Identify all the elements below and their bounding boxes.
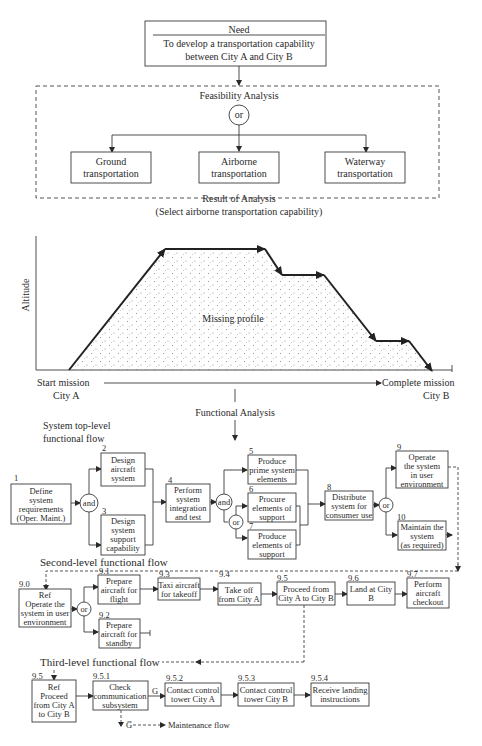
diagram-text: 9.5 [32,671,43,681]
need-title: Need [228,24,249,35]
diagram-text: 9.5.4 [311,673,329,683]
need-box: Need To develop a transportation capabil… [145,21,326,66]
top-level-title-1: System top-level [43,420,111,431]
diagram-text: flight [110,594,129,604]
block-9-1-prepare-flight: 9.1 Prepare aircraft for flight [98,566,140,604]
diagram-text: 3 [102,506,106,516]
diagram-text: and test [175,512,202,522]
option-ground: Ground transportation [71,152,151,183]
diagram-text: checkout [413,597,444,607]
option-waterway: Waterway transportation [325,152,405,183]
diagram-text: (as required) [400,540,443,550]
diagram-text: transportation [337,168,393,179]
diagram-text: 4 [168,475,173,485]
diagram-text: for takeoff [161,589,197,599]
diagram-text: 8 [327,482,331,492]
block-9-2-prepare-standby: 9.2 Prepare aircraft for standby [99,610,140,648]
diagram-text: Airborne [221,156,258,167]
diagram-text: (Oper. Maint.) [17,513,66,523]
block-3-design-support: 3 Design system support capability [101,506,145,555]
or-gate-label: or [235,109,244,120]
diagram-text: 9 [397,442,401,452]
go-label: G [152,686,158,696]
diagram-text: environment [401,479,445,489]
diagram-text: 9.1 [99,566,110,576]
diagram-text: support [259,512,285,522]
diagram-text: tower City B [244,694,288,704]
altitude-axis-label: Altitude [20,278,31,311]
diagram-text: 1 [14,473,18,483]
block-5-produce-prime: 5 Produce prime system elements [248,446,296,484]
second-level-flow: Second-level functional flow 9.0 Ref Ope… [19,556,458,662]
block-9-5-3-contact-tower-b: 9.5.3 Contact control tower City B [238,673,294,706]
diagram-text: 9.6 [348,573,359,583]
diagram-text: from City A [218,594,260,604]
block-1-define-requirements: 1 Define system requirements (Oper. Main… [11,473,71,524]
diagram-text: elements [257,474,287,484]
result-title: Result of Analysis [202,193,275,204]
diagram-text: instructions [320,694,360,704]
complete-mission-label: Complete mission [382,377,455,388]
block-2-design-aircraft: 2 Design aircraft system [101,443,145,486]
diagram-text: B [368,593,374,603]
diagram-text: Waterway [345,156,385,167]
diagram-text: or [232,517,239,527]
diagram-text: 9.5.3 [238,673,255,683]
diagram-text: 9.2 [99,610,110,620]
need-line2: between City A and City B [185,51,293,62]
block-9-7-checkout: 9.7 Perform aircraft checkout [407,569,449,608]
diagram-text: or [382,500,389,510]
diagram-text: 9.4 [219,569,230,579]
block-9-operate: 9 Operate the system in user environment [396,442,448,489]
missing-profile-label: Missing profile [202,313,264,324]
diagram-text: consumer use [326,510,373,520]
block-8-distribute: 8 Distribute system for consumer use [325,482,373,520]
block-9-5-4-receive-instructions: 9.5.4 Receive landing instructions [311,673,369,706]
diagram-text: Ground [96,156,127,167]
nogo-arrow-icon [118,722,124,727]
top-level-flow: System top-level functional flow 1 Defin… [11,420,458,571]
option-airborne: Airborne transportation [199,152,279,183]
block-7-produce-support: 7 Produce elements of support [248,521,296,559]
block-9-5-2-contact-tower-a: 9.5.2 Contact control tower City A [165,673,221,706]
diagram-text: City A to City B [278,593,334,603]
maintenance-flow-label: Maintenance flow [168,720,230,730]
diagram-text: subsystem [102,700,138,710]
diagram-text: 5 [249,446,253,456]
diagram-text: and [218,497,231,507]
block-9-5-1-check-comm: 9.5.1 Check communication subsystem [93,671,148,710]
diagram-text: 10 [397,512,406,522]
diagram-text: 7 [249,521,253,531]
diagram-text: tower City A [171,694,216,704]
diagram-text: 2 [102,443,106,453]
end-city-label: City B [423,390,450,401]
need-line1: To develop a transportation capability [163,38,314,49]
diagram-text: transportation [211,168,267,179]
diagram-text: 6 [249,484,253,494]
result-detail: (Select airborne transportation capabili… [156,206,323,218]
start-mission-label: Start mission [37,377,90,388]
diagram-text: 9.0 [19,579,30,589]
diagram-text: 9.7 [407,569,418,579]
block-9-3-taxi: 9.3 Taxi aircraft for takeoff [158,569,200,600]
functional-analysis-diagram: Need To develop a transportation capabil… [0,0,482,746]
block-9-6-land: 9.6 Land at City B [347,573,395,605]
block-10-maintain: 10 Maintain the system (as required) [397,512,446,550]
diagram-text: to City B [38,709,70,719]
start-city-label: City A [53,390,80,401]
diagram-text: 9.3 [159,569,170,579]
third-level-title: Third-level functional flow [40,656,160,668]
block-4-integration-test: 4 Perform system integration and test [166,475,210,522]
diagram-text: 9.5 [277,573,288,583]
block-6-procure-support: 6 Procure elements of support [248,484,296,522]
mission-altitude-profile: Altitude Missing profile Start mission C… [20,236,455,401]
block-9-4-takeoff: 9.4 Take off from City A [218,569,261,605]
diagram-text: transportation [83,168,139,179]
feasibility-analysis-region: Feasibility Analysis or Ground transport… [36,86,439,218]
block-9-5-proceed: 9.5 Proceed from City A to City B [277,573,335,605]
diagram-text: or [80,604,87,614]
functional-analysis-title: Functional Analysis [195,407,275,418]
diagram-text: and [83,498,96,508]
top-level-title-2: functional flow [43,433,105,444]
diagram-text: capability [106,543,140,553]
